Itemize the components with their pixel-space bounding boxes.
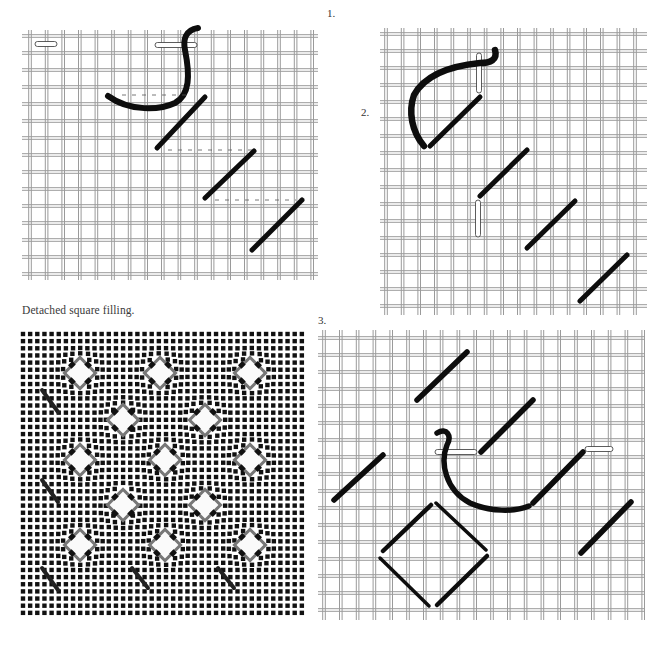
fabric-hole-square: [258, 444, 262, 448]
fabric-hole-square: [300, 482, 304, 486]
fabric-hole-square: [164, 517, 168, 521]
fabric-hole-square: [78, 563, 82, 567]
fabric-hole-square: [150, 596, 154, 600]
fabric-hole-square: [95, 538, 99, 542]
fabric-hole-square: [142, 518, 146, 522]
fabric-hole-square: [21, 546, 25, 550]
fabric-hole-square: [35, 489, 39, 493]
fabric-hole-square: [78, 477, 82, 481]
fabric-hole-square: [49, 468, 53, 472]
fabric-hole-square: [271, 496, 275, 500]
fabric-hole-square: [257, 396, 261, 400]
fabric-hole-square: [250, 477, 254, 481]
fabric-hole-square: [157, 391, 161, 395]
fabric-hole-square: [49, 332, 53, 336]
fabric-hole-square: [107, 596, 111, 600]
stitch: [437, 556, 487, 605]
fabric-hole-square: [278, 346, 282, 350]
fabric-hole-square: [157, 396, 161, 400]
fabric-hole-square: [135, 353, 139, 357]
fabric-hole-square: [21, 496, 25, 500]
fabric-hole-square: [228, 389, 232, 393]
fabric-hole-square: [42, 418, 46, 422]
fabric-hole-square: [241, 385, 245, 389]
fabric-hole-square: [64, 575, 68, 579]
fabric-hole-square: [99, 353, 103, 357]
fabric-hole-square: [64, 396, 68, 400]
fabric-hole-square: [137, 512, 141, 516]
fabric-hole-square: [221, 453, 225, 457]
fabric-hole-square: [235, 589, 239, 593]
fabric-hole-square: [107, 525, 111, 529]
fabric-hole-square: [78, 517, 82, 521]
fabric-hole-square: [42, 425, 46, 429]
fabric-hole-square: [85, 482, 89, 486]
fabric-hole-square: [135, 482, 139, 486]
fabric-hole-square: [49, 596, 53, 600]
fabric-hole-square: [138, 495, 142, 499]
fabric-hole-square: [207, 401, 211, 405]
needle-icon: [477, 53, 482, 93]
fabric-hole-square: [293, 561, 297, 565]
fabric-hole-square: [250, 403, 254, 407]
fabric-hole-square: [157, 339, 161, 343]
fabric-hole-square: [64, 418, 68, 422]
fabric-hole-square: [35, 496, 39, 500]
fabric-hole-square: [35, 596, 39, 600]
fabric-hole-square: [63, 439, 67, 443]
fabric-hole-square: [135, 446, 139, 450]
fabric-hole-square: [150, 332, 154, 336]
fabric-hole-square: [278, 561, 282, 565]
fabric-hole-square: [217, 426, 221, 430]
needle-icon: [476, 200, 481, 237]
fabric-hole-square: [57, 439, 61, 443]
fabric-hole-square: [141, 461, 145, 465]
fabric-hole-square: [107, 589, 111, 593]
fabric-hole-square: [242, 496, 246, 500]
fabric-hole-square: [164, 410, 168, 414]
fabric-hole-square: [164, 482, 168, 486]
fabric-hole-square: [171, 432, 175, 436]
fabric-hole-square: [300, 575, 304, 579]
fabric-hole-square: [157, 351, 161, 355]
fabric-hole-square: [214, 382, 218, 386]
fabric-hole-square: [148, 358, 152, 362]
fabric-hole-square: [257, 410, 261, 414]
fabric-hole-square: [157, 425, 161, 429]
fabric-hole-square: [49, 375, 53, 379]
fabric-hole-square: [207, 453, 211, 457]
fabric-hole-square: [85, 503, 89, 507]
fabric-hole-square: [183, 503, 187, 507]
fabric-hole-square: [266, 367, 270, 371]
fabric-hole-square: [271, 511, 275, 515]
fabric-hole-square: [214, 589, 218, 593]
fabric-hole-square: [300, 368, 304, 372]
fabric-hole-square: [191, 487, 195, 491]
fabric-hole-square: [186, 468, 190, 472]
fabric-hole-square: [143, 425, 147, 429]
fabric-hole-square: [228, 403, 232, 407]
fabric-hole-square: [285, 589, 289, 593]
fabric-hole-square: [28, 432, 32, 436]
fabric-hole-square: [285, 489, 289, 493]
fabric-hole-square: [192, 461, 196, 465]
fabric-hole-square: [57, 518, 61, 522]
fabric-hole-square: [63, 561, 67, 565]
fabric-hole-square: [266, 461, 270, 465]
fabric-hole-square: [155, 443, 159, 447]
fabric-hole-square: [228, 561, 232, 565]
fabric-hole-square: [135, 589, 139, 593]
fabric-hole-square: [71, 489, 75, 493]
fabric-hole-square: [78, 568, 82, 572]
step-3-label: 3.: [318, 314, 326, 326]
fabric-hole-square: [49, 553, 53, 557]
fabric-hole-square: [121, 546, 125, 550]
fabric-hole-square: [257, 596, 261, 600]
fabric-hole-square: [28, 410, 32, 414]
fabric-hole-square: [114, 382, 118, 386]
fabric-hole-square: [221, 604, 225, 608]
fabric-hole-square: [235, 352, 239, 356]
fabric-hole-square: [35, 589, 39, 593]
fabric-hole-square: [149, 524, 153, 528]
fabric-hole-square: [293, 468, 297, 472]
